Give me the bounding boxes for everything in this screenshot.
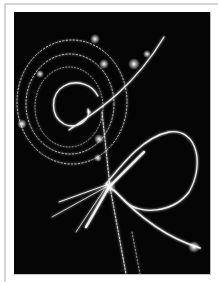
particle-track-photo xyxy=(14,12,211,275)
particle-tracks-graphic xyxy=(14,12,210,274)
